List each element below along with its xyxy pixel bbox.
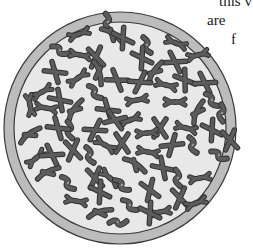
cell-illustration	[0, 0, 253, 249]
